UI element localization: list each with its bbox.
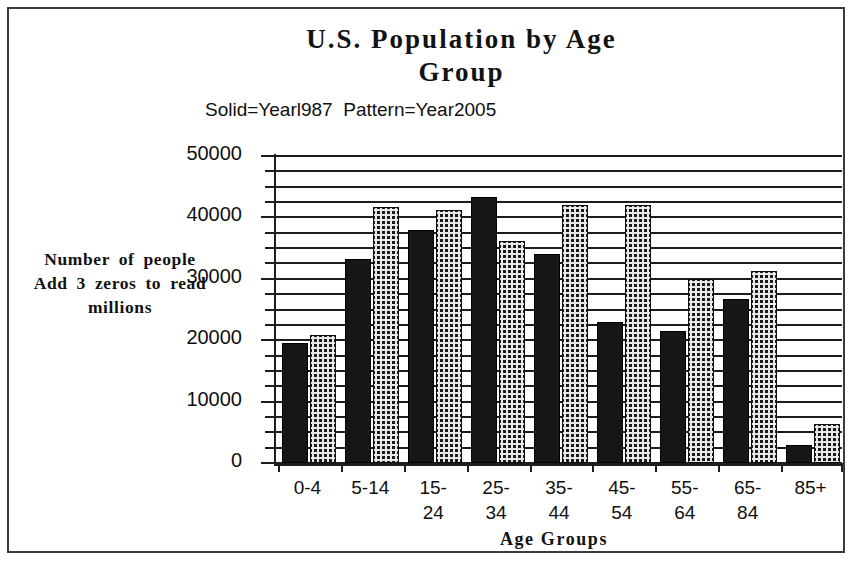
x-axis-tick <box>718 463 720 472</box>
gridline <box>276 155 842 157</box>
x-axis-tick-label: 55- 64 <box>653 475 716 525</box>
bar-65-84-year1987 <box>723 299 749 463</box>
y-axis-minor-tick <box>265 247 276 249</box>
gridline <box>276 170 842 172</box>
x-axis-tick <box>341 463 343 472</box>
y-axis-tick-label: 0 <box>231 449 242 472</box>
x-axis-line <box>274 463 842 466</box>
bar-15-24-year2005 <box>436 210 462 463</box>
bar-5-14-year2005 <box>373 207 399 463</box>
gridline <box>276 201 842 203</box>
bar-25-34-year2005 <box>499 241 525 463</box>
bar-85+-year1987 <box>786 445 812 463</box>
gridline <box>276 232 842 234</box>
bar-35-44-year1987 <box>534 254 560 463</box>
bar-15-24-year1987 <box>408 230 434 463</box>
bar-55-64-year2005 <box>688 279 714 463</box>
x-axis-tick-label: 0-4 <box>276 475 339 500</box>
bar-65-84-year2005 <box>751 271 777 463</box>
x-axis-tick-label: 5-14 <box>339 475 402 500</box>
bar-85+-year2005 <box>814 424 840 463</box>
chart-frame: U.S. Population by Age Group Solid=Yearl… <box>7 7 845 553</box>
gridline <box>276 216 842 218</box>
y-axis-major-tick <box>261 155 276 157</box>
y-axis-minor-tick <box>265 416 276 418</box>
y-axis-minor-tick <box>265 262 276 264</box>
bar-0-4-year1987 <box>282 343 308 463</box>
x-axis-tick <box>530 463 532 472</box>
gridline <box>276 247 842 249</box>
y-axis-minor-tick <box>265 370 276 372</box>
y-axis-minor-tick <box>265 355 276 357</box>
bar-55-64-year1987 <box>660 331 686 463</box>
x-axis-tick-label: 45- 54 <box>590 475 653 525</box>
bar-0-4-year2005 <box>310 335 336 463</box>
bar-25-34-year1987 <box>471 197 497 463</box>
x-axis-tick-label: 85+ <box>779 475 842 500</box>
x-axis-tick-label: 15- 24 <box>402 475 465 525</box>
bar-45-54-year2005 <box>625 205 651 463</box>
y-axis-minor-tick <box>265 170 276 172</box>
y-axis-title: Number of people Add 3 zeros to read mil… <box>31 247 209 319</box>
plot-area: 01000020000300004000050000 <box>276 156 842 463</box>
gridline <box>276 186 842 188</box>
x-axis-tick <box>655 463 657 472</box>
x-axis-tick <box>278 463 280 472</box>
x-axis-tick-label: 65- 84 <box>716 475 779 525</box>
x-axis-title: Age Groups <box>264 529 844 550</box>
x-axis-tick-label: 35- 44 <box>528 475 591 525</box>
y-axis-tick-label: 40000 <box>186 203 242 226</box>
y-axis-tick-label: 30000 <box>186 265 242 288</box>
y-axis-tick-label: 50000 <box>186 142 242 165</box>
y-axis-minor-tick <box>265 309 276 311</box>
x-axis-tick-label: 25- 34 <box>465 475 528 525</box>
x-axis-tick-labels: 0-45-1415- 2425- 3435- 4445- 5455- 6465-… <box>276 475 842 525</box>
y-axis-minor-tick <box>265 385 276 387</box>
y-axis-major-tick <box>261 401 276 403</box>
x-axis-tick <box>781 463 783 472</box>
bar-45-54-year1987 <box>597 322 623 463</box>
chart-legend: Solid=Yearl987 Pattern=Year2005 <box>205 99 496 121</box>
y-axis-tick-label: 20000 <box>186 326 242 349</box>
bar-5-14-year1987 <box>345 259 371 463</box>
y-axis-minor-tick <box>265 232 276 234</box>
x-axis-tick <box>592 463 594 472</box>
y-axis-major-tick <box>261 278 276 280</box>
x-axis-tick <box>467 463 469 472</box>
y-axis-minor-tick <box>265 447 276 449</box>
y-axis-minor-tick <box>265 324 276 326</box>
y-axis-tick-label: 10000 <box>186 388 242 411</box>
y-axis-minor-tick <box>265 186 276 188</box>
y-axis-minor-tick <box>265 293 276 295</box>
chart-title: U.S. Population by Age Group <box>224 23 699 89</box>
bar-35-44-year2005 <box>562 205 588 463</box>
y-axis-minor-tick <box>265 201 276 203</box>
y-axis-major-tick <box>261 462 276 464</box>
y-axis-minor-tick <box>265 431 276 433</box>
x-axis-tick <box>841 463 843 472</box>
y-axis-major-tick <box>261 339 276 341</box>
x-axis-tick <box>404 463 406 472</box>
y-axis-major-tick <box>261 216 276 218</box>
